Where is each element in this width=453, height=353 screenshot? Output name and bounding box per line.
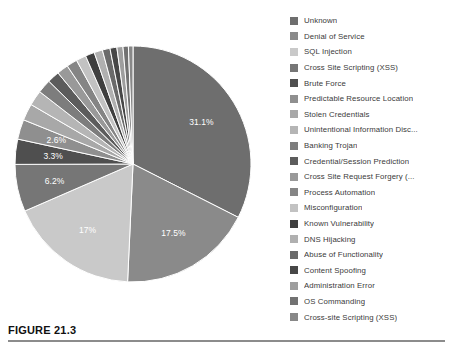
legend-item-label: Unintentional Information Disc...: [304, 125, 418, 134]
legend-color-swatch: [290, 64, 298, 72]
legend-item[interactable]: Cross Site Scripting (XSS): [290, 60, 453, 76]
legend-color-swatch: [290, 266, 298, 274]
legend-color-swatch: [290, 220, 298, 228]
legend-item[interactable]: Unintentional Information Disc...: [290, 122, 453, 138]
legend-item-label: Administration Error: [304, 281, 375, 290]
legend-item[interactable]: Banking Trojan: [290, 138, 453, 154]
legend-color-swatch: [290, 251, 298, 259]
legend-item-label: Misconfiguration: [304, 203, 362, 212]
pie-slice-value-label: 17%: [79, 225, 96, 235]
legend-item[interactable]: Stolen Credentials: [290, 107, 453, 123]
legend-color-swatch: [290, 32, 298, 40]
legend-item-label: Credential/Session Prediction: [304, 157, 409, 166]
legend-item-label: DNS Hijacking: [304, 235, 356, 244]
legend-item[interactable]: DNS Hijacking: [290, 231, 453, 247]
figure-container: 31.1%17.5%17%6.2%3.3%2.6% UnknownDenial …: [0, 0, 453, 353]
legend-color-swatch: [290, 188, 298, 196]
figure-caption: FIGURE 21.3: [8, 324, 445, 336]
legend-color-swatch: [290, 95, 298, 103]
legend-item[interactable]: Process Automation: [290, 185, 453, 201]
legend-item-label: Predictable Resource Location: [304, 94, 413, 103]
legend-item[interactable]: Brute Force: [290, 75, 453, 91]
caption-divider: [8, 340, 445, 342]
legend-color-swatch: [290, 17, 298, 25]
legend-color-swatch: [290, 142, 298, 150]
pie-slice-value-label: 6.2%: [45, 176, 65, 186]
legend-item[interactable]: Administration Error: [290, 278, 453, 294]
legend-color-swatch: [290, 48, 298, 56]
pie-chart-svg: 31.1%17.5%17%6.2%3.3%2.6%: [14, 14, 252, 314]
legend-item-label: Abuse of Functionality: [304, 250, 383, 259]
legend-color-swatch: [290, 157, 298, 165]
legend-item[interactable]: Content Spoofing: [290, 263, 453, 279]
legend-item[interactable]: Predictable Resource Location: [290, 91, 453, 107]
legend-item-label: Cross Site Scripting (XSS): [304, 63, 398, 72]
legend-item-label: Process Automation: [304, 188, 375, 197]
legend-item[interactable]: Known Vulnerability: [290, 216, 453, 232]
pie-slice-value-label: 17.5%: [161, 228, 186, 238]
legend-item-label: Known Vulnerability: [304, 219, 374, 228]
legend-item[interactable]: Denial of Service: [290, 29, 453, 45]
legend-item[interactable]: SQL Injection: [290, 44, 453, 60]
pie-slice-value-label: 3.3%: [44, 151, 64, 161]
pie-slice-value-label: 31.1%: [189, 117, 214, 127]
legend-color-swatch: [290, 204, 298, 212]
legend-item-label: Content Spoofing: [304, 266, 366, 275]
legend-item-label: Cross Site Request Forgery (...: [304, 172, 415, 181]
pie-slices-group: [15, 46, 251, 282]
legend-item[interactable]: Credential/Session Prediction: [290, 153, 453, 169]
legend-item-label: Cross-site Scripting (XSS): [304, 313, 397, 322]
legend-item[interactable]: Misconfiguration: [290, 200, 453, 216]
legend-color-swatch: [290, 313, 298, 321]
legend-color-swatch: [290, 110, 298, 118]
legend-item-label: OS Commanding: [304, 297, 365, 306]
legend-item-label: Banking Trojan: [304, 141, 357, 150]
legend-item[interactable]: Cross-site Scripting (XSS): [290, 309, 453, 325]
legend-color-swatch: [290, 173, 298, 181]
legend-color-swatch: [290, 297, 298, 305]
legend-item-label: Unknown: [304, 16, 337, 25]
legend-item-label: Denial of Service: [304, 32, 365, 41]
legend-color-swatch: [290, 282, 298, 290]
legend-color-swatch: [290, 235, 298, 243]
legend-color-swatch: [290, 79, 298, 87]
legend-item[interactable]: Abuse of Functionality: [290, 247, 453, 263]
legend-item-label: Stolen Credentials: [304, 110, 370, 119]
caption-block: FIGURE 21.3: [8, 324, 445, 342]
legend-item-label: Brute Force: [304, 79, 346, 88]
legend-item-label: SQL Injection: [304, 47, 352, 56]
legend-color-swatch: [290, 126, 298, 134]
pie-slice-value-label: 2.6%: [47, 135, 67, 145]
legend-item[interactable]: Cross Site Request Forgery (...: [290, 169, 453, 185]
legend-item[interactable]: Unknown: [290, 13, 453, 29]
pie-chart-area: 31.1%17.5%17%6.2%3.3%2.6%: [0, 0, 268, 318]
pie-chart: 31.1%17.5%17%6.2%3.3%2.6%: [14, 14, 252, 314]
chart-legend: UnknownDenial of ServiceSQL InjectionCro…: [290, 13, 453, 318]
legend-item[interactable]: OS Commanding: [290, 294, 453, 310]
